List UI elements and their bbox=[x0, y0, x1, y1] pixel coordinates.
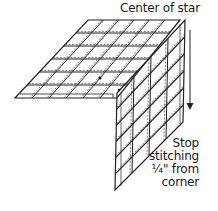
left-fabric-panel bbox=[15, 20, 180, 98]
note-line: corner bbox=[149, 176, 199, 189]
corner-dot-marker bbox=[118, 89, 120, 91]
stop-stitching-note: Stop stitching ¼" from corner bbox=[149, 137, 199, 189]
center-of-star-label: Center of star bbox=[120, 2, 200, 15]
down-arrow-icon bbox=[187, 30, 194, 110]
center-dot-marker bbox=[99, 77, 102, 80]
